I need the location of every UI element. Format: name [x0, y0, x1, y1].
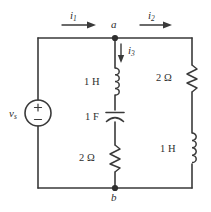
- voltage-source-polarity: [35, 104, 42, 120]
- capacitor-C1-plates: [106, 113, 124, 122]
- resistor-R1-value-label: 2 Ω: [79, 153, 95, 164]
- inductor-L1-value-label: 1 H: [84, 77, 99, 88]
- current-arrows: [62, 22, 172, 64]
- current-i2-arrow-head: [163, 22, 172, 29]
- voltage-source-label: vs: [9, 108, 17, 121]
- circuit-diagram-canvas: a b i1 i2 i3 vs 1 H 1 F 2 Ω 2 Ω 1 H: [0, 0, 211, 212]
- node-a-dot: [112, 35, 118, 41]
- current-i1-label: i1: [70, 10, 77, 23]
- inductor-L1-coils: [115, 68, 119, 95]
- current-i2-label: i2: [148, 10, 155, 23]
- resistor-R2-zigzag: [187, 65, 197, 92]
- capacitor-plate-bottom-curved: [107, 118, 124, 122]
- current-i1-arrow-head: [87, 22, 96, 29]
- current-i2-subscript: 2: [151, 14, 155, 23]
- current-i3-arrow-head: [118, 55, 124, 63]
- current-i3-label: i3: [128, 45, 135, 58]
- current-i1-subscript: 1: [73, 14, 77, 23]
- circuit-schematic-svg: [0, 0, 211, 212]
- inductor-L2-value-label: 1 H: [160, 144, 175, 155]
- node-a-label: a: [111, 19, 117, 30]
- resistor-R2-value-label: 2 Ω: [156, 73, 172, 84]
- node-b-label: b: [111, 192, 117, 203]
- inductor-L2-coils: [192, 133, 196, 163]
- resistor-R1-zigzag: [110, 145, 120, 172]
- current-i3-subscript: 3: [131, 49, 135, 58]
- voltage-source-subscript: s: [14, 112, 17, 121]
- capacitor-C1-value-label: 1 F: [85, 112, 99, 123]
